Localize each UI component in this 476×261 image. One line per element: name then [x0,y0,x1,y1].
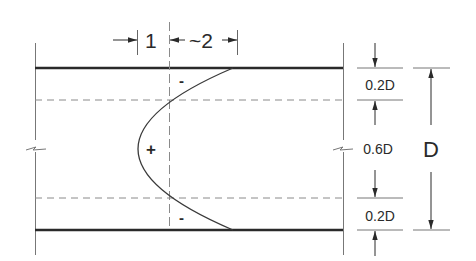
dim-label-bottom-0-2D: 0.2D [365,208,395,224]
sign-bottom-negative: - [179,209,184,226]
dim-label-total-D: D [423,137,439,162]
top-dimension [113,30,238,55]
profile-diagram: - + - 1 ~2 0.2D 0.6D 0.2D D [0,0,476,261]
break-symbol-right-icon [333,147,353,150]
sign-middle-positive: + [146,140,156,159]
break-symbol-left-icon [26,147,46,150]
right-boundary-line [333,43,353,255]
dim-label-1: 1 [145,29,157,52]
dim-label-middle-0-6D: 0.6D [363,141,393,157]
sign-top-negative: - [179,72,184,89]
dim-label-top-0-2D: 0.2D [365,77,395,93]
dim-label-approx-2: ~2 [189,29,213,52]
left-boundary-line [26,43,46,255]
